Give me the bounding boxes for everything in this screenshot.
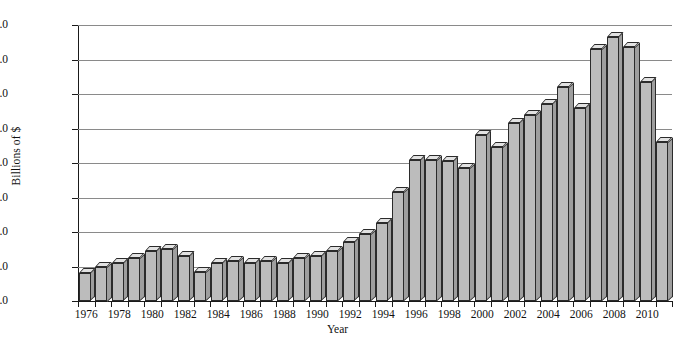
- x-tick-mark: [227, 301, 228, 307]
- x-tick-mark: [243, 301, 244, 307]
- bar-series: [78, 25, 672, 301]
- bar-1990: [310, 256, 322, 301]
- y-tick-mark: [72, 60, 78, 61]
- x-tick-mark: [408, 301, 409, 307]
- bar-front-face: [376, 223, 388, 301]
- bar-front-face: [161, 249, 173, 301]
- x-tick-mark: [194, 301, 195, 307]
- bar-front-face: [607, 37, 619, 301]
- y-tick-label: $4.0: [0, 226, 8, 238]
- bar-front-face: [524, 115, 536, 301]
- x-tick-mark: [491, 301, 492, 307]
- y-tick-mark: [72, 163, 78, 164]
- x-tick-mark: [326, 301, 327, 307]
- bar-2008: [607, 37, 619, 301]
- bar-front-face: [508, 123, 520, 301]
- x-tick-mark: [177, 301, 178, 307]
- x-tick-mark: [392, 301, 393, 307]
- bar-1999: [458, 168, 470, 301]
- bar-front-face: [623, 47, 635, 301]
- x-tick-mark: [128, 301, 129, 307]
- bar-1984: [211, 263, 223, 301]
- bar-2001: [491, 147, 503, 301]
- bar-1985: [227, 261, 239, 301]
- bar-1977: [95, 267, 107, 302]
- bar-front-face: [178, 256, 190, 301]
- bar-1996: [409, 160, 421, 301]
- bar-1983: [194, 272, 206, 301]
- bar-2004: [541, 104, 553, 301]
- bar-front-face: [590, 49, 602, 301]
- y-tick-label: $0.0: [0, 295, 8, 307]
- bar-front-face: [293, 258, 305, 301]
- bar-front-face: [557, 87, 569, 301]
- bar-1992: [343, 242, 355, 301]
- bar-front-face: [392, 192, 404, 301]
- y-tick-mark: [72, 94, 78, 95]
- bar-1987: [260, 261, 272, 301]
- x-tick-mark: [309, 301, 310, 307]
- bar-front-face: [425, 160, 437, 301]
- bar-front-face: [227, 261, 239, 301]
- x-tick-mark: [606, 301, 607, 307]
- y-tick-label: $2.0: [0, 261, 8, 273]
- bar-1976: [79, 273, 91, 301]
- bar-2009: [623, 47, 635, 301]
- bar-1979: [128, 258, 140, 301]
- bar-front-face: [458, 168, 470, 301]
- bar-1980: [145, 251, 157, 301]
- bar-2007: [590, 49, 602, 301]
- bar-1981: [161, 249, 173, 301]
- x-tick-mark: [639, 301, 640, 307]
- bar-1998: [442, 161, 454, 301]
- bar-front-face: [409, 160, 421, 301]
- bar-2000: [475, 135, 487, 301]
- x-tick-mark: [623, 301, 624, 307]
- bar-front-face: [128, 258, 140, 301]
- x-tick-mark: [375, 301, 376, 307]
- x-tick-mark: [144, 301, 145, 307]
- x-tick-mark: [441, 301, 442, 307]
- bar-2002: [508, 123, 520, 301]
- x-tick-mark: [342, 301, 343, 307]
- y-tick-mark: [72, 301, 78, 302]
- bar-front-face: [310, 256, 322, 301]
- bar-front-face: [640, 82, 652, 301]
- bar-front-face: [359, 234, 371, 301]
- bar-front-face: [95, 267, 107, 302]
- x-tick-mark: [672, 301, 673, 307]
- x-tick-mark: [540, 301, 541, 307]
- bar-2003: [524, 115, 536, 301]
- bar-side-face: [668, 138, 673, 301]
- bar-front-face: [574, 108, 586, 301]
- x-tick-mark: [161, 301, 162, 307]
- x-tick-mark: [210, 301, 211, 307]
- bar-2011: [656, 142, 668, 301]
- y-tick-label: $8.0: [0, 157, 8, 169]
- y-tick-label: $10.0: [0, 123, 8, 135]
- x-tick-mark: [359, 301, 360, 307]
- bar-1994: [376, 223, 388, 301]
- y-tick-label: $14.0: [0, 54, 8, 66]
- bar-1995: [392, 192, 404, 301]
- x-tick-mark: [293, 301, 294, 307]
- bar-1978: [112, 263, 124, 301]
- bar-1991: [326, 251, 338, 301]
- x-tick-mark: [111, 301, 112, 307]
- bar-front-face: [475, 135, 487, 301]
- y-tick-mark: [72, 25, 78, 26]
- x-axis-title-text: Year: [327, 323, 348, 335]
- x-tick-mark: [656, 301, 657, 307]
- bar-front-face: [442, 161, 454, 301]
- y-tick-mark: [72, 129, 78, 130]
- y-tick-label: $12.0: [0, 88, 8, 100]
- bar-front-face: [277, 263, 289, 301]
- bar-front-face: [541, 104, 553, 301]
- bar-front-face: [326, 251, 338, 301]
- bar-1997: [425, 160, 437, 301]
- bar-front-face: [112, 263, 124, 301]
- x-tick-mark: [425, 301, 426, 307]
- y-tick-label: $6.0: [0, 192, 8, 204]
- x-tick-mark: [260, 301, 261, 307]
- x-tick-mark: [590, 301, 591, 307]
